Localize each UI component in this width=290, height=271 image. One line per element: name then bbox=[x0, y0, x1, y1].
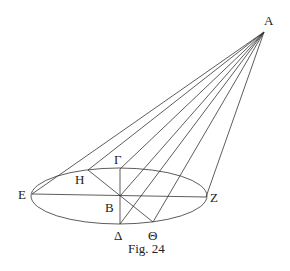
figure-caption: Fig. 24 bbox=[128, 241, 165, 256]
line-A-G bbox=[120, 32, 264, 169]
label-G: Γ bbox=[114, 152, 122, 167]
line-A-Z bbox=[206, 32, 264, 197]
label-Z: Z bbox=[210, 190, 218, 205]
label-H: Η bbox=[75, 172, 84, 187]
cone-diagram: A E Η Γ B Δ Θ Z Fig. 24 bbox=[0, 0, 290, 271]
label-B: B bbox=[105, 200, 114, 215]
line-A-Th bbox=[153, 32, 264, 222]
line-A-B bbox=[120, 32, 264, 196]
label-A: A bbox=[264, 13, 274, 28]
label-D: Δ bbox=[114, 228, 122, 243]
label-E: E bbox=[18, 187, 26, 202]
